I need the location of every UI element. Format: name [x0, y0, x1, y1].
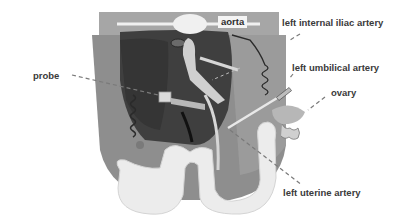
leader-ovary [308, 97, 325, 110]
probe-tip [159, 92, 171, 102]
label-left-internal-iliac-artery: left internal iliac artery [282, 18, 383, 28]
label-left-uterine-artery: left uterine artery [283, 188, 361, 198]
aorta-bifurcation [173, 14, 207, 34]
label-ovary: ovary [331, 88, 356, 98]
fallopian-tube-fimbriae [281, 124, 300, 139]
leader-left-umbilical [289, 74, 293, 79]
label-left-umbilical-artery: left umbilical artery [292, 63, 379, 73]
label-probe: probe [33, 71, 59, 81]
left-vessel-node [171, 39, 185, 47]
left-coil-end [136, 141, 144, 149]
label-aorta: aorta [218, 16, 247, 28]
leader-left-internal-iliac [290, 34, 300, 40]
